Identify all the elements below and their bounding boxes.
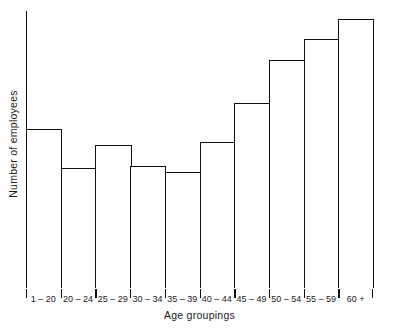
x-axis-tick-label: 50 – 54 (269, 291, 304, 307)
x-axis-tick-label: 25 – 29 (95, 291, 130, 307)
bar (304, 39, 340, 288)
bar (26, 129, 62, 288)
bar (200, 142, 236, 288)
bar (269, 60, 305, 288)
x-axis-title: Age groupings (26, 309, 373, 321)
x-axis-tick-label: 35 – 39 (165, 291, 200, 307)
y-axis-title: Number of employees (0, 0, 26, 288)
bar (61, 168, 97, 288)
x-axis-tick-label: 20 – 24 (61, 291, 96, 307)
bar (338, 19, 374, 288)
x-axis-tick-label: 30 – 34 (130, 291, 165, 307)
x-axis-tick-label: 40 – 44 (200, 291, 235, 307)
y-axis-title-text: Number of employees (7, 90, 19, 197)
bar (165, 172, 201, 288)
x-axis-tick-label: 45 – 49 (234, 291, 269, 307)
x-axis-tick-label: 55 – 59 (304, 291, 339, 307)
plot-area (26, 11, 373, 288)
x-axis-tick-label: 60 + (338, 291, 373, 307)
bar (95, 145, 131, 288)
x-axis-tick-labels: 1 – 2020 – 2425 – 2930 – 3435 – 3940 – 4… (26, 291, 373, 307)
x-axis-tick-label: 1 – 20 (26, 291, 61, 307)
bar-series (26, 11, 373, 288)
bar (234, 103, 270, 288)
bar (130, 166, 166, 288)
histogram-chart: Number of employees 1 – 2020 – 2425 – 29… (0, 0, 410, 334)
